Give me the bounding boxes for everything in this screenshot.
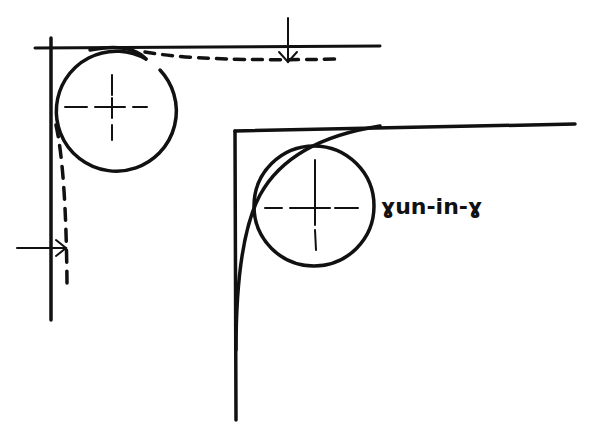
right-vertical-edge — [235, 131, 236, 420]
run-in-curve — [236, 126, 380, 350]
right-horizontal-edge — [235, 124, 575, 131]
left-centerlines — [65, 75, 147, 140]
left-figure — [17, 18, 380, 320]
left-arrow-icon — [17, 240, 66, 256]
dashed-offset-path-left — [56, 125, 67, 283]
top-arrow-icon — [279, 18, 297, 62]
right-figure — [235, 124, 575, 420]
run-in-radius-label: ɣun-in-ɣ — [381, 194, 482, 219]
left-circle — [56, 51, 176, 171]
left-horizontal-edge — [35, 46, 380, 48]
right-centerlines — [265, 160, 358, 250]
diagram-canvas — [0, 0, 592, 439]
dashed-offset-path-top — [145, 52, 340, 60]
